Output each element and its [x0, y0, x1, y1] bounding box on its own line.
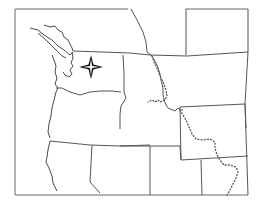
- wa-or-border: [56, 88, 121, 95]
- or-id-border: [120, 92, 126, 129]
- wa-id-border: [123, 55, 124, 92]
- star-inner-icon: [83, 59, 99, 75]
- id-mt-border: [131, 9, 183, 111]
- wa-canada-border: [73, 51, 150, 55]
- continental-divide-mt: [148, 56, 167, 102]
- mt-canada-border: [150, 52, 248, 56]
- ca-nv-border: [90, 145, 100, 193]
- or-south-border: [50, 141, 150, 146]
- or-pacific-coast: [48, 92, 56, 138]
- map-canvas: [0, 0, 262, 206]
- puget-sound-coast: [63, 52, 73, 77]
- ca-pacific-coast: [46, 141, 57, 191]
- wy-south-border: [181, 156, 248, 160]
- wy-north-border: [180, 104, 245, 107]
- compass-star-marker: [79, 55, 103, 79]
- map-frame: [15, 9, 248, 195]
- wa-pacific-coast: [52, 55, 58, 92]
- juan-de-fuca-coast: [38, 33, 66, 58]
- mt-east-border: [245, 52, 248, 104]
- vancouver-island-coast: [30, 28, 73, 55]
- wy-co-east-border: [245, 104, 248, 195]
- ut-co-border: [201, 160, 202, 195]
- continental-divide-wy-co: [180, 110, 238, 195]
- outline-map: [0, 0, 262, 206]
